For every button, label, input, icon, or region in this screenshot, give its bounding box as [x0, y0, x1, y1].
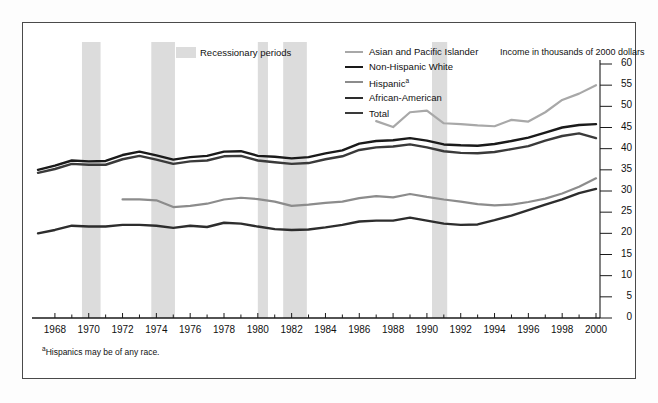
y-tick-label: 50: [610, 99, 632, 110]
x-tick-label: 1982: [275, 324, 309, 335]
x-tick-label: 1972: [106, 324, 140, 335]
legend-item-label: Asian and Pacific Islander: [369, 44, 478, 59]
series-line: [38, 133, 596, 172]
x-tick-label: 1986: [342, 324, 376, 335]
series-line: [123, 178, 596, 207]
y-tick-label: 15: [610, 248, 632, 259]
series-line: [38, 189, 596, 233]
x-tick-label: 1970: [72, 324, 106, 335]
legend-line-swatch: [345, 81, 363, 83]
recession-band: [151, 42, 175, 318]
x-tick-label: 1998: [545, 324, 579, 335]
legend-line-swatch: [345, 66, 363, 68]
recession-band: [258, 42, 268, 318]
legend-item[interactable]: Total: [345, 106, 478, 121]
x-tick-label: 1978: [207, 324, 241, 335]
x-tick-label: 1990: [410, 324, 444, 335]
legend-line-swatch: [345, 51, 363, 53]
y-tick-label: 5: [610, 290, 632, 301]
legend-footnote-marker: a: [405, 77, 409, 84]
x-tick-label: 1976: [173, 324, 207, 335]
series-legend: Asian and Pacific IslanderNon-Hispanic W…: [345, 44, 478, 121]
y-tick-label: 10: [610, 269, 632, 280]
recession-band: [82, 42, 101, 318]
legend-item[interactable]: Hispanica: [345, 75, 478, 90]
y-tick-label: 40: [610, 142, 632, 153]
footnote-text: Hispanics may be of any race.: [46, 347, 160, 357]
y-tick-label: 35: [610, 163, 632, 174]
x-tick-label: 1984: [308, 324, 342, 335]
legend-item[interactable]: African-American: [345, 90, 478, 105]
x-tick-label: 1992: [444, 324, 478, 335]
y-tick-label: 30: [610, 184, 632, 195]
chart-figure: Recessionary periods Asian and Pacific I…: [0, 0, 658, 403]
chart-plot: [0, 0, 658, 403]
recession-legend-label: Recessionary periods: [200, 47, 291, 58]
legend-item[interactable]: Asian and Pacific Islander: [345, 44, 478, 59]
legend-item[interactable]: Non-Hispanic White: [345, 59, 478, 74]
y-tick-label: 60: [610, 57, 632, 68]
legend-item-label: Hispanica: [369, 73, 409, 92]
legend-item-label: African-American: [369, 90, 442, 105]
y-tick-label: 25: [610, 205, 632, 216]
recession-band: [283, 42, 307, 318]
legend-line-swatch: [345, 112, 363, 114]
legend-item-label: Total: [369, 106, 389, 121]
y-tick-label: 45: [610, 121, 632, 132]
x-tick-label: 1974: [139, 324, 173, 335]
x-tick-label: 1996: [511, 324, 545, 335]
x-tick-label: 2000: [579, 324, 613, 335]
footnote: aHispanics may be of any race.: [42, 345, 159, 357]
y-tick-label: 0: [610, 311, 632, 322]
y-axis-title: Income in thousands of 2000 dollars: [500, 47, 645, 57]
legend-line-swatch: [345, 97, 363, 99]
x-tick-label: 1980: [241, 324, 275, 335]
y-tick-label: 55: [610, 78, 632, 89]
x-tick-label: 1968: [38, 324, 72, 335]
recession-legend-swatch: [176, 47, 196, 58]
y-tick-label: 20: [610, 226, 632, 237]
x-tick-label: 1988: [376, 324, 410, 335]
x-tick-label: 1994: [478, 324, 512, 335]
series-line: [38, 124, 596, 170]
